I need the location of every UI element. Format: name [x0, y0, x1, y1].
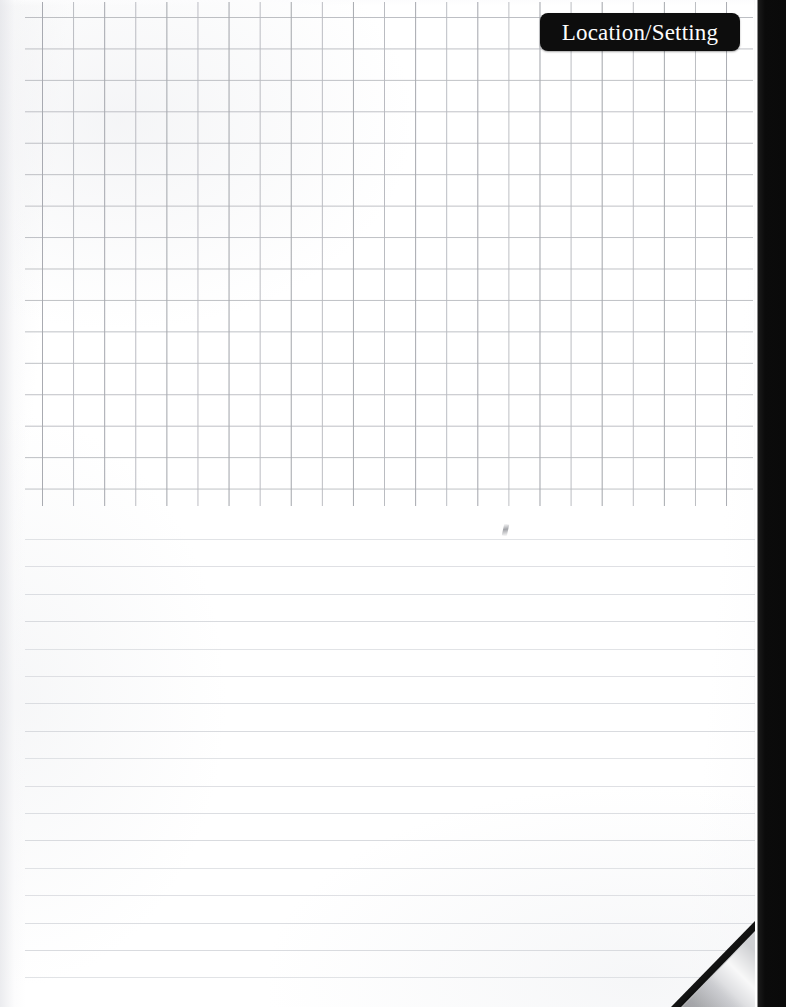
notebook-binding-strip — [755, 0, 786, 1007]
rule-line — [25, 594, 758, 595]
rule-line — [25, 731, 759, 732]
rule-line — [25, 950, 760, 951]
rule-line — [25, 786, 760, 787]
rule-line — [25, 813, 759, 814]
rule-line — [25, 840, 758, 841]
rule-line — [25, 539, 760, 540]
rule-line — [25, 758, 758, 759]
rule-line — [25, 923, 758, 924]
rule-line — [25, 977, 759, 978]
lined-writing-area[interactable] — [25, 506, 760, 1007]
location-setting-badge: Location/Setting — [540, 13, 740, 51]
rule-line — [25, 868, 760, 869]
rule-line — [25, 621, 760, 622]
location-setting-label: Location/Setting — [562, 21, 719, 44]
rule-line — [25, 895, 759, 896]
left-edge-shading — [0, 0, 26, 1007]
page-corner-curl[interactable] — [671, 921, 755, 1007]
rule-line — [25, 676, 758, 677]
rule-line — [25, 703, 760, 704]
notebook-page: Location/Setting — [0, 0, 786, 1007]
rule-line — [25, 566, 759, 567]
squared-graph-area[interactable] — [25, 2, 753, 506]
rule-line — [25, 649, 759, 650]
